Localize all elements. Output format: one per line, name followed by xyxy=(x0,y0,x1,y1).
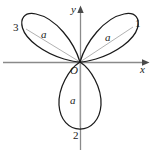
x-axis-label: x xyxy=(140,64,145,75)
y-axis-arrow-icon xyxy=(77,6,83,14)
petal-tip-label-left: 3 xyxy=(13,22,19,33)
y-axis-label: y xyxy=(71,4,76,15)
petal-tip-label-right: 1 xyxy=(135,18,141,29)
petal-left xyxy=(22,14,80,62)
radius-line-left xyxy=(26,29,80,62)
radius-label-bottom: a xyxy=(70,95,76,106)
petal-tip-label-bottom: 2 xyxy=(73,130,79,141)
radius-label-left: a xyxy=(41,29,47,40)
rose-curve-figure: y x O 1 3 2 a a a xyxy=(0,0,153,154)
radius-label-right: a xyxy=(105,32,111,43)
radius-guide-lines xyxy=(26,27,133,127)
origin-label: O xyxy=(70,65,78,76)
